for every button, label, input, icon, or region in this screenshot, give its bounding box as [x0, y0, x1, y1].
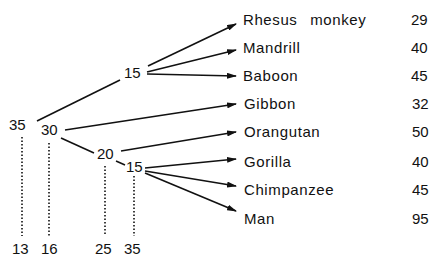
node-value-monkeys-15: 15 — [124, 65, 141, 81]
leaf-value: 50 — [412, 124, 429, 140]
leaf-name: Gorilla — [244, 154, 292, 170]
node-value-apes-15: 15 — [126, 159, 143, 175]
bottom-value: 16 — [41, 241, 58, 257]
tree-lines — [0, 0, 441, 261]
leaf-value: 45 — [412, 182, 429, 198]
node-value-20: 20 — [97, 146, 114, 162]
leaf-name: Rhesus monkey — [243, 12, 366, 28]
leaf-name: Mandrill — [243, 40, 300, 56]
node-value-root: 35 — [9, 117, 26, 133]
leaf-name: Chimpanzee — [244, 182, 334, 198]
bottom-value: 13 — [12, 241, 29, 257]
leaf-name: Baboon — [243, 68, 298, 84]
leaf-value: 32 — [412, 96, 429, 112]
leaf-name: Orangutan — [244, 124, 320, 140]
leaf-value: 95 — [412, 211, 429, 227]
bottom-value: 25 — [95, 241, 112, 257]
node-value-30: 30 — [41, 122, 58, 138]
leaf-name: Man — [244, 211, 275, 227]
bottom-value: 35 — [124, 241, 141, 257]
leaf-value: 45 — [411, 68, 428, 84]
leaf-value: 29 — [411, 12, 428, 28]
leaf-value: 40 — [411, 40, 428, 56]
leaf-value: 40 — [412, 154, 429, 170]
leaf-name: Gibbon — [244, 96, 296, 112]
